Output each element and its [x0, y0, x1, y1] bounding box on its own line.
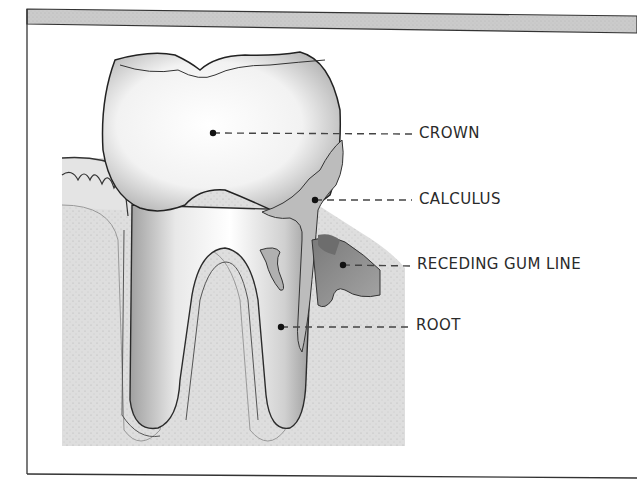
label-calculus: CALCULUS: [419, 192, 501, 207]
label-crown: CROWN: [419, 126, 480, 141]
tooth-diagram: [0, 0, 637, 482]
label-receding-gum-line: RECEDING GUM LINE: [417, 257, 581, 272]
diagram-frame: CROWN CALCULUS RECEDING GUM LINE ROOT: [0, 0, 637, 482]
label-root: ROOT: [416, 318, 461, 333]
